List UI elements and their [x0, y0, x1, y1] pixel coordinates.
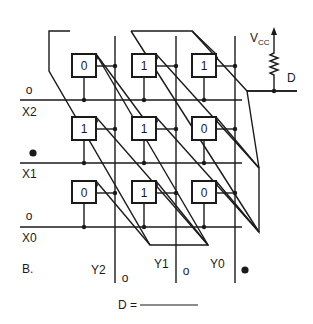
- row-x2-label: X2: [22, 105, 37, 119]
- svg-text:1: 1: [141, 59, 148, 73]
- column-y0-label: Y0: [210, 257, 225, 271]
- row-x1-state-dot: [29, 149, 36, 156]
- cell-r0-c2: 1: [192, 54, 216, 77]
- output-label-d: D: [287, 71, 296, 85]
- svg-text:1: 1: [141, 122, 148, 136]
- cell-r1-c1: 1: [132, 117, 156, 140]
- memory-array-diagram: 0 1 1 1 1 0 0 1 0 VCC D o X2 X1 o X0 Y2 …: [0, 0, 313, 324]
- svg-text:0: 0: [81, 59, 88, 73]
- vcc-label: VCC: [250, 31, 270, 47]
- svg-text:1: 1: [81, 122, 88, 136]
- cell-r0-c1: 1: [132, 54, 156, 77]
- svg-text:0: 0: [201, 186, 208, 200]
- row-x0-label: X0: [22, 231, 37, 245]
- figure-label: B.: [22, 262, 33, 276]
- row-x0-state: o: [26, 209, 33, 223]
- column-y2-label: Y2: [91, 263, 106, 277]
- row-x1-label: X1: [22, 167, 37, 181]
- cell-r2-c1: 1: [132, 181, 156, 203]
- answer-prompt: D =: [118, 298, 137, 312]
- cell-r2-c0: 0: [72, 181, 96, 203]
- row-x2-state: o: [26, 83, 33, 97]
- column-y0-state-dot: [241, 266, 248, 273]
- column-y1-label: Y1: [154, 257, 169, 271]
- svg-text:1: 1: [201, 59, 208, 73]
- svg-text:0: 0: [201, 122, 208, 136]
- cell-r1-c2: 0: [192, 117, 216, 140]
- vcc-arrow-icon: [271, 27, 277, 35]
- column-y1-state: o: [183, 264, 190, 278]
- svg-text:0: 0: [81, 186, 88, 200]
- cell-r2-c2: 0: [192, 181, 216, 203]
- cell-r1-c0: 1: [72, 117, 96, 140]
- pullup-resistor-icon: [270, 34, 278, 91]
- cell-r0-c0: 0: [72, 54, 96, 77]
- svg-text:1: 1: [141, 186, 148, 200]
- column-y2-state: o: [122, 271, 129, 285]
